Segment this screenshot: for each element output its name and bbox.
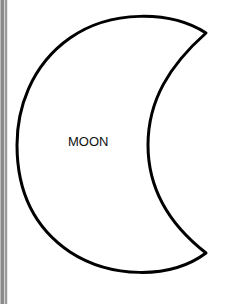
moon-label: MOON: [68, 134, 108, 149]
crescent-moon-shape: [0, 0, 226, 304]
